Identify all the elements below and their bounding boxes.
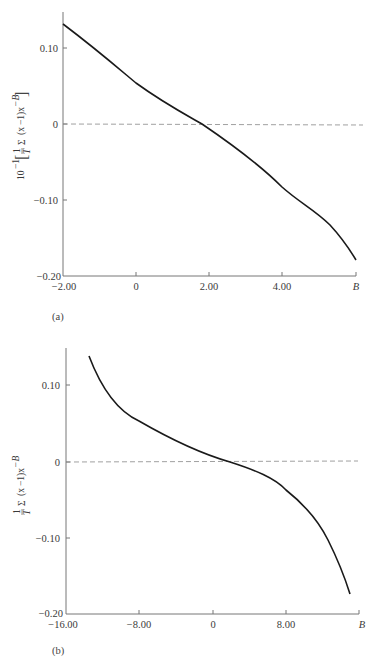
svg-text:]: ] [13, 92, 30, 97]
svg-text:−1)x: −1)x [16, 468, 27, 486]
chart-b-ytick-label: −0.10 [36, 533, 60, 544]
svg-text:10: 10 [16, 170, 26, 180]
chart-b-curve [89, 356, 350, 594]
chart-b-xtick-label: −8.00 [127, 619, 151, 630]
chart-b-y-axis-label: 1 T Σ (x −1)x −B [11, 456, 32, 515]
svg-text:−1)x: −1)x [16, 107, 27, 125]
chart-b-ytick-label: −0.20 [39, 608, 63, 619]
chart-b-xtick-label: 8.00 [277, 619, 295, 630]
chart-a-ytick-label: −0.10 [34, 195, 58, 206]
svg-text:−B: −B [11, 456, 21, 468]
figure: 0.10 0 −0.10 −0.20 −2.00 0 2.00 4.00 B 1… [0, 0, 375, 664]
panel-label-a: (a) [52, 311, 64, 322]
chart-b: 0.10 0 −0.10 −0.20 −16.00 −8.00 0 8.00 B… [11, 348, 366, 630]
svg-text:Σ: Σ [17, 500, 27, 506]
chart-a-xtick-label: 0 [133, 281, 138, 292]
svg-text:1: 1 [12, 148, 22, 153]
chart-b-ytick-label: 0.10 [42, 380, 60, 391]
chart-b-x-axis-label: B [359, 619, 366, 630]
chart-b-zero-line [66, 461, 358, 462]
chart-a-y-axis-label: 10 −1 [ 1 T Σ (x −1)x −B ] [11, 92, 32, 180]
svg-text:1: 1 [12, 509, 22, 514]
panel-label-b: (b) [52, 645, 64, 656]
chart-a-curve [63, 24, 356, 260]
chart-a-x-axis-label: B [353, 281, 360, 292]
svg-text:T: T [22, 509, 32, 515]
chart-a-ytick-label: 0 [53, 119, 58, 130]
chart-a: 0.10 0 −0.10 −0.20 −2.00 0 2.00 4.00 B 1… [11, 12, 363, 292]
chart-a-xtick-label: −2.00 [52, 281, 76, 292]
svg-text:Σ: Σ [17, 139, 27, 145]
chart-b-xtick-label: 0 [210, 619, 215, 630]
chart-b-xtick-label: −16.00 [48, 619, 78, 630]
svg-text:T: T [22, 148, 32, 154]
chart-a-xtick-label: 2.00 [200, 281, 218, 292]
chart-a-ytick-label: 0.10 [40, 43, 58, 54]
chart-b-ytick-label: 0 [55, 457, 60, 468]
chart-a-zero-line [63, 124, 363, 125]
chart-a-xtick-label: 4.00 [273, 281, 291, 292]
svg-text:(x: (x [16, 488, 27, 496]
svg-text:[: [ [13, 155, 30, 160]
svg-text:(x: (x [16, 127, 27, 135]
